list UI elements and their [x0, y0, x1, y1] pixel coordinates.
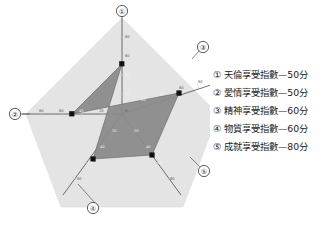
legend-label-2: 愛情享受指數—50分 [224, 88, 308, 97]
tick-label-axis3-40: 40 [160, 92, 165, 96]
tick-label-axis4-60: 60 [88, 161, 93, 165]
legend-marker-4: ④ [213, 124, 224, 133]
axis-marker-3: ③ [197, 41, 208, 52]
tick-label-axis1-40: 40 [125, 73, 130, 77]
tick-label-axis3-60: 60 [179, 86, 184, 90]
radar-chart-page: 0 20 40 60 80 20 40 60 80 20 40 60 80 20… [0, 0, 327, 228]
tick-label-axis1-20: 20 [125, 92, 130, 96]
axis-marker-1-label: ① [119, 8, 125, 16]
axis-marker-3-label: ③ [200, 44, 206, 52]
data-point-2 [69, 111, 74, 116]
axis-marker-2: ② [9, 108, 20, 119]
legend-item-4: ④ 物質享受指數—60分 [213, 120, 325, 138]
legend-item-1: ① 天倫享受指數—50分 [213, 66, 325, 84]
tick-label-axis5-60: 60 [158, 161, 163, 165]
radar-chart-svg: 0 20 40 60 80 20 40 60 80 20 40 60 80 20… [0, 0, 210, 228]
tick-label-axis1-80: 80 [125, 35, 130, 39]
legend-marker-2: ② [213, 88, 224, 97]
tick-label-axis4-20: 20 [112, 129, 117, 133]
legend-label-1: 天倫享受指數—50分 [224, 70, 308, 79]
legend-label-5: 成就享受指數—80分 [224, 142, 308, 151]
axis-marker-2-label: ② [12, 111, 18, 119]
leader-line-3 [192, 51, 199, 59]
axis-marker-5: ⑤ [198, 165, 209, 176]
tick-label-axis5-20: 20 [134, 129, 139, 133]
tick-label-axis2-20: 20 [99, 109, 104, 113]
axis-marker-1: ① [116, 5, 127, 16]
tick-label-axis3-80: 80 [198, 80, 203, 84]
data-point-1 [119, 61, 124, 66]
legend-marker-5: ⑤ [213, 142, 224, 151]
legend-item-5: ⑤ 成就享受指數—80分 [213, 138, 325, 156]
legend-item-3: ③ 精神享受指數—60分 [213, 102, 325, 120]
legend-marker-3: ③ [213, 106, 224, 115]
tick-label-axis2-40: 40 [79, 109, 84, 113]
axis-marker-5-label: ⑤ [201, 168, 207, 176]
tick-label-axis2-80: 80 [39, 109, 44, 113]
radar-chart-area: 0 20 40 60 80 20 40 60 80 20 40 60 80 20… [0, 0, 210, 228]
legend-item-2: ② 愛情享受指數—50分 [213, 84, 325, 102]
legend-marker-1: ① [213, 70, 224, 79]
tick-label-axis5-40: 40 [146, 145, 151, 149]
axis-marker-4-label: ④ [90, 205, 96, 213]
tick-label-axis1-60: 60 [125, 54, 130, 58]
tick-label-axis2-60: 60 [59, 109, 64, 113]
tick-label-axis3-20: 20 [141, 98, 146, 102]
legend: ① 天倫享受指數—50分 ② 愛情享受指數—50分 ③ 精神享受指數—60分 ④… [213, 66, 325, 156]
axis-marker-4: ④ [87, 202, 98, 213]
legend-label-3: 精神享受指數—60分 [224, 106, 308, 115]
tick-label-axis4-40: 40 [100, 145, 105, 149]
tick-label-axis5-80: 80 [170, 177, 175, 181]
tick-label-axis4-80: 80 [77, 177, 82, 181]
legend-label-4: 物質享受指數—60分 [224, 124, 308, 133]
data-point-3 [176, 90, 181, 95]
data-point-5 [149, 152, 154, 157]
